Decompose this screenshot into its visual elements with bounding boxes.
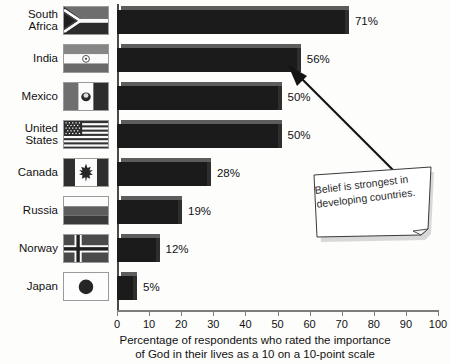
bar-value-label: 5% [143,281,160,293]
x-axis-tick [181,310,182,316]
bar-value-label: 28% [217,167,240,179]
x-axis-tick [438,310,439,316]
x-axis-tick [149,310,150,316]
bar-front-face [117,276,133,300]
bar-front-face [117,48,297,72]
x-axis-tick [310,310,311,316]
bar [117,120,282,148]
category-row: India [0,39,112,77]
bar-value-label: 19% [188,205,211,217]
category-label: Mexico [0,90,63,103]
category-row: South Africa [0,1,112,39]
arrow-up-left-icon [280,60,400,175]
bar-front-face [117,124,278,148]
bar-side-face [207,158,211,186]
x-axis-tick-label: 70 [336,318,348,330]
x-axis-tick-label: 100 [429,318,447,330]
x-axis-tick [245,310,246,316]
bar-front-face [117,238,156,262]
x-axis-tick-label: 80 [368,318,380,330]
x-axis-tick [406,310,407,316]
bar-side-face [178,196,182,224]
flag-russia-icon [63,196,109,225]
bar-side-face [345,6,349,34]
x-axis-tick-label: 0 [114,318,120,330]
x-axis-tick [213,310,214,316]
category-label: South Africa [0,8,63,33]
category-label: United States [0,122,63,147]
flag-norway-icon [63,234,109,263]
bar-value-label: 12% [166,243,189,255]
bar [117,6,349,34]
category-row: Canada [0,153,112,191]
bar-front-face [117,162,207,186]
x-axis-tick-label: 50 [271,318,283,330]
category-row: Russia [0,191,112,229]
bar [117,82,282,110]
x-axis-tick-label: 10 [143,318,155,330]
callout-note: Belief is strongest in developing countr… [300,165,435,247]
bar [117,196,182,224]
bar-chart: South Africa India Mexico United States [0,0,451,364]
flag-india-icon [63,44,109,73]
category-label: Russia [0,204,63,217]
x-axis-tick-label: 90 [400,318,412,330]
bar-side-face [133,272,137,300]
category-label: Japan [0,280,63,293]
bar [117,44,301,72]
x-axis-tick [374,310,375,316]
x-axis-tick [342,310,343,316]
bar [117,272,137,300]
x-axis-tick-label: 30 [207,318,219,330]
flag-canada-icon [63,158,109,187]
x-axis-title: Percentage of respondents who rated the … [90,334,420,361]
x-axis-tick [278,310,279,316]
flag-south-africa-icon [63,6,109,35]
flag-japan-icon [63,272,109,301]
flag-mexico-icon [63,82,109,111]
category-label: Norway [0,242,63,255]
bar [117,234,160,262]
bar-side-face [156,234,160,262]
x-axis-tick-label: 40 [239,318,251,330]
category-row: Japan [0,267,112,305]
category-row: Norway [0,229,112,267]
x-axis-tick-label: 20 [175,318,187,330]
category-row: Mexico [0,77,112,115]
category-label: Canada [0,166,63,179]
category-label: India [0,52,63,65]
x-axis-tick [117,310,118,316]
flag-united-states-icon [63,120,109,149]
category-row: United States [0,115,112,153]
x-axis-tick-label: 60 [303,318,315,330]
bar [117,158,211,186]
bar-front-face [117,200,178,224]
bar-front-face [117,86,278,110]
bar-value-label: 71% [355,15,378,27]
bar-front-face [117,10,345,34]
